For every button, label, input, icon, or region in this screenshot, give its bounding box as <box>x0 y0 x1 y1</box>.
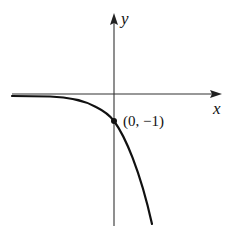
y-axis-label: y <box>119 9 129 28</box>
point-label: (0, −1) <box>123 113 164 130</box>
x-axis-label: x <box>212 99 221 118</box>
graph-canvas: y x (0, −1) <box>0 0 231 234</box>
point-marker <box>111 118 117 124</box>
